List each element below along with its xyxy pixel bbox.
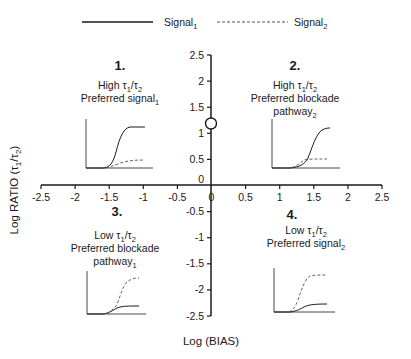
y-tick-label: -1.5 [186, 257, 204, 269]
x-tick-label: 2.5 [375, 191, 390, 203]
x-tick-label: -1 [139, 191, 148, 203]
x-tick-label: 1.5 [306, 191, 321, 203]
legend-signal1-label: Signal1 [164, 16, 197, 31]
legend-signal2-label: Signal2 [294, 16, 327, 31]
y-axis-title: Log RATIO (τ1/τ2) [8, 145, 23, 234]
quadrant-2-line3: pathway2 [273, 105, 316, 120]
quadrant-2-line2: Preferred blockade [251, 92, 340, 104]
bias-ratio-chart: Signal1 Signal2 -2.5 -2 -1.5 -1 -0.5 0 [0, 0, 411, 359]
x-tick-label: 0.5 [238, 191, 253, 203]
y-tick-label: -2.5 [186, 310, 204, 322]
y-tick-label: 1 [198, 127, 204, 139]
x-tick-label: -1.5 [100, 191, 118, 203]
quadrant-2: 2. High τ1/τ2 Preferred blockade pathway… [251, 58, 340, 168]
quadrant-4-number: 4. [287, 207, 298, 222]
x-tick-label: 1 [277, 191, 283, 203]
y-tick-label: 0.5 [189, 153, 204, 165]
y-tick-label: -2 [195, 283, 204, 295]
y-tick-label: 2 [198, 75, 204, 87]
y-tick-label: 1.5 [189, 101, 204, 113]
quadrant-4-line2: Preferred signal2 [267, 237, 345, 252]
y-tick-label: -0.5 [186, 205, 204, 217]
y-tick-label: -1 [195, 231, 204, 243]
x-tick-label: -2 [70, 191, 79, 203]
quadrant-2-inset [272, 119, 340, 168]
quadrant-4: 4. Low τ1/τ2 Preferred signal2 [267, 207, 345, 312]
x-axis-title: Log (BIAS) [183, 335, 239, 347]
quadrant-1-number: 1. [115, 58, 126, 73]
y-tick-label: 2.5 [189, 49, 204, 61]
x-tick-label: -0.5 [168, 191, 186, 203]
x-tick-label: 2 [345, 191, 351, 203]
quadrant-1: 1. High τ1/τ2 Preferred signal1 [81, 58, 159, 168]
y-tick-label: 0 [198, 173, 204, 185]
legend: Signal1 Signal2 [82, 16, 327, 31]
quadrant-1-line2: Preferred signal1 [81, 92, 159, 107]
quadrant-2-number: 2. [290, 58, 301, 73]
quadrant-3-line3: pathway1 [93, 255, 136, 270]
data-point-marker [206, 118, 217, 129]
quadrant-3-number: 3. [112, 204, 123, 219]
quadrant-3-inset [87, 271, 146, 314]
quadrant-4-inset [274, 268, 335, 312]
quadrant-3: 3. Low τ1/τ2 Preferred blockade pathway1 [71, 204, 160, 314]
quadrant-1-inset [86, 119, 153, 168]
quadrant-3-line2: Preferred blockade [71, 242, 160, 254]
x-tick-label: -2.5 [32, 191, 50, 203]
